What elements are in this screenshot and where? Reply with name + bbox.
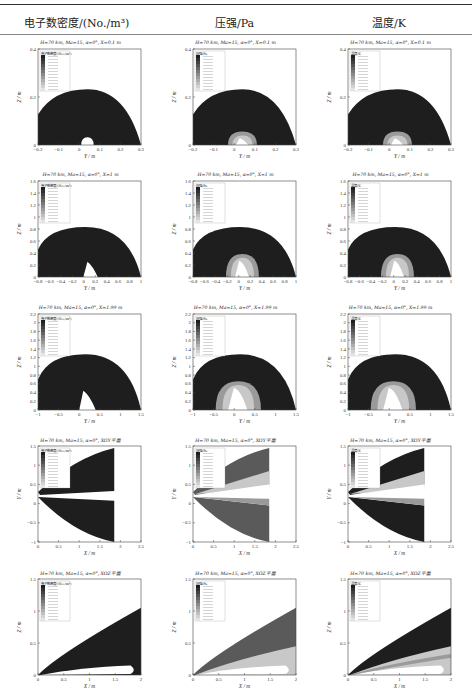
- contour-plot: −0.2−0.100.10.20.300.20.4Y / mZ / m: [312, 40, 469, 168]
- svg-text:−0.8: −0.8: [189, 279, 198, 284]
- svg-text:1: 1: [78, 544, 81, 549]
- contour-plot: 00.511.5200.511.5X / mZ / m: [157, 570, 314, 698]
- svg-text:0.8: 0.8: [185, 227, 192, 232]
- svg-text:1.5: 1.5: [30, 577, 37, 582]
- svg-text:1.2: 1.2: [30, 355, 37, 360]
- svg-text:0: 0: [37, 544, 40, 549]
- svg-text:2.5: 2.5: [448, 544, 455, 549]
- svg-text:Y / m: Y / m: [84, 285, 95, 291]
- svg-text:1.6: 1.6: [340, 338, 347, 343]
- svg-text:0.2: 0.2: [340, 399, 347, 404]
- svg-text:1.5: 1.5: [407, 544, 414, 549]
- svg-text:−0.2: −0.2: [68, 279, 77, 284]
- top-rule: [0, 4, 472, 5]
- svg-text:0.8: 0.8: [437, 279, 444, 284]
- svg-text:1.8: 1.8: [340, 329, 347, 334]
- svg-text:2.5: 2.5: [293, 544, 300, 549]
- figure-electron-density-row-2: H=70 km, Ma=15, α=0°, X=1 m−0.8−0.6−0.4−…: [2, 172, 159, 300]
- legend-title: 电子数密度/(No./m³): [41, 581, 72, 586]
- svg-text:0.6: 0.6: [340, 239, 347, 244]
- svg-text:1.5: 1.5: [185, 444, 192, 449]
- svg-text:−1: −1: [35, 412, 41, 417]
- svg-text:0: 0: [83, 279, 86, 284]
- svg-text:1.6: 1.6: [185, 179, 192, 184]
- svg-text:0.1: 0.1: [407, 147, 414, 152]
- figure-pressure-row-1: H=70 km, Ma=15, α=0°, X=0.1 m−0.2−0.100.…: [157, 40, 314, 168]
- legend-title: 温度/K: [351, 448, 361, 453]
- svg-text:−0.4: −0.4: [57, 279, 66, 284]
- svg-text:Y / m: Y / m: [326, 488, 332, 499]
- svg-text:0.5: 0.5: [371, 677, 378, 682]
- svg-text:1.8: 1.8: [185, 329, 192, 334]
- svg-text:2: 2: [274, 544, 277, 549]
- svg-text:Z / m: Z / m: [326, 91, 332, 102]
- svg-text:0: 0: [192, 677, 195, 682]
- svg-text:1: 1: [189, 364, 192, 369]
- svg-text:0: 0: [347, 544, 350, 549]
- svg-text:1.5: 1.5: [340, 577, 347, 582]
- svg-text:2.2: 2.2: [30, 312, 37, 317]
- legend-title: 压强/Pa: [196, 51, 207, 56]
- svg-text:−1: −1: [345, 412, 351, 417]
- figure-pressure-row-3: H=70 km, Ma=15, α=0°, X=1.99 m−1−0.500.5…: [157, 305, 314, 433]
- svg-text:0.2: 0.2: [185, 263, 192, 268]
- svg-text:−0.2: −0.2: [378, 279, 387, 284]
- legend-title: 压强/Pa: [196, 448, 207, 453]
- svg-text:0.8: 0.8: [340, 227, 347, 232]
- svg-text:1.5: 1.5: [185, 577, 192, 582]
- contour-plot: 00.511.5200.511.5X / mZ / m: [312, 570, 469, 698]
- svg-text:−0.2: −0.2: [189, 147, 198, 152]
- svg-text:1: 1: [344, 609, 347, 614]
- svg-text:2.5: 2.5: [138, 544, 145, 549]
- svg-text:Z / m: Z / m: [326, 356, 332, 367]
- legend-title: 温度/K: [351, 316, 361, 321]
- svg-text:0.5: 0.5: [56, 544, 63, 549]
- svg-text:1.6: 1.6: [30, 338, 37, 343]
- svg-text:1.4: 1.4: [340, 347, 347, 352]
- svg-text:1: 1: [34, 609, 37, 614]
- contour-plot: −1−0.500.511.500.20.40.60.811.21.41.61.8…: [2, 305, 159, 433]
- svg-text:0.5: 0.5: [340, 482, 347, 487]
- svg-text:0.2: 0.2: [427, 147, 434, 152]
- svg-text:1.4: 1.4: [30, 347, 37, 352]
- svg-text:0: 0: [347, 677, 350, 682]
- svg-text:Z / m: Z / m: [326, 621, 332, 632]
- svg-text:0.5: 0.5: [211, 544, 218, 549]
- svg-text:1.4: 1.4: [30, 191, 37, 196]
- svg-text:2: 2: [450, 677, 453, 682]
- svg-text:−1: −1: [341, 540, 347, 545]
- svg-text:Y / m: Y / m: [239, 285, 250, 291]
- svg-text:0.8: 0.8: [185, 373, 192, 378]
- svg-text:Z / m: Z / m: [171, 91, 177, 102]
- svg-text:0.8: 0.8: [30, 227, 37, 232]
- contour-plot: −1−0.500.511.500.20.40.60.811.21.41.61.8…: [312, 305, 469, 433]
- svg-text:0.2: 0.2: [30, 399, 37, 404]
- svg-text:0.4: 0.4: [185, 47, 192, 52]
- figure-pressure-row-2: H=70 km, Ma=15, α=0°, X=1 m−0.8−0.6−0.4−…: [157, 172, 314, 300]
- svg-text:X / m: X / m: [238, 550, 250, 556]
- contour-plot: −0.2−0.100.10.20.300.20.4Y / mZ / m: [157, 40, 314, 168]
- svg-text:Z / m: Z / m: [171, 621, 177, 632]
- svg-text:1: 1: [274, 412, 277, 417]
- figure-temperature-row-1: H=70 km, Ma=15, α=0°, X=0.1 m−0.2−0.100.…: [312, 40, 469, 168]
- svg-text:0.5: 0.5: [216, 677, 223, 682]
- svg-text:0.6: 0.6: [30, 239, 37, 244]
- svg-text:X / m: X / m: [393, 683, 405, 689]
- svg-text:0.1: 0.1: [97, 147, 104, 152]
- svg-text:Y / m: Y / m: [394, 285, 405, 291]
- svg-text:1.5: 1.5: [30, 444, 37, 449]
- svg-text:1: 1: [344, 215, 347, 220]
- svg-text:−0.2: −0.2: [344, 147, 353, 152]
- svg-text:0.5: 0.5: [30, 641, 37, 646]
- svg-text:0.6: 0.6: [115, 279, 122, 284]
- svg-text:−0.5: −0.5: [182, 520, 191, 525]
- svg-text:1: 1: [119, 412, 122, 417]
- svg-text:Z / m: Z / m: [16, 356, 22, 367]
- contour-plot: 00.511.5200.511.5X / mZ / m: [2, 570, 159, 698]
- legend-title: 电子数密度/(No./m³): [41, 448, 72, 453]
- svg-text:−0.4: −0.4: [212, 279, 221, 284]
- svg-text:−0.8: −0.8: [34, 279, 43, 284]
- svg-text:1.8: 1.8: [30, 329, 37, 334]
- svg-text:0.4: 0.4: [340, 47, 347, 52]
- svg-text:0.4: 0.4: [414, 279, 421, 284]
